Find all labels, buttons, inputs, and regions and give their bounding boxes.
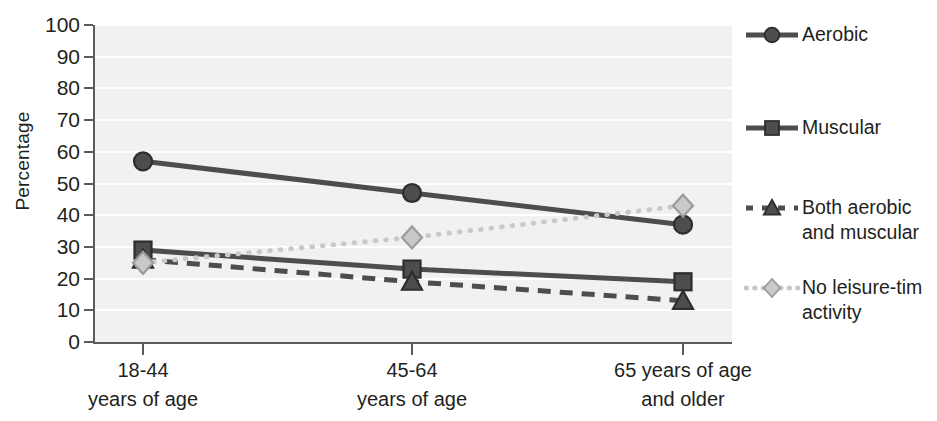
- x-label-line-1: 65 years of age: [614, 359, 752, 381]
- circle-legend-glyph: [744, 22, 800, 48]
- x-axis-tick-label: 18-44years of age: [28, 356, 258, 414]
- legend-item-1[interactable]: Aerobic: [744, 22, 937, 48]
- y-axis-tick-mark: [84, 309, 93, 311]
- y-axis-tick-mark: [84, 87, 93, 89]
- series-circle: [134, 152, 692, 233]
- legend-label: Both aerobic and muscular: [800, 195, 919, 245]
- chart-figure: Percentage 0102030405060708090100 18-44y…: [0, 0, 937, 421]
- legend-label: Muscular: [800, 115, 881, 140]
- legend-label: Aerobic: [800, 22, 868, 47]
- diamond-marker: [764, 279, 780, 297]
- y-axis-tick-mark: [84, 214, 93, 216]
- diamond-marker: [673, 195, 693, 217]
- circle-marker: [674, 216, 692, 234]
- y-axis-tick-mark: [84, 183, 93, 185]
- y-axis-tick-mark: [84, 341, 93, 343]
- square-marker: [675, 273, 692, 290]
- circle-marker: [765, 28, 780, 43]
- legend-item-4[interactable]: No leisure-tim activity: [744, 275, 937, 325]
- x-axis-tick-mark: [682, 344, 684, 355]
- square-marker: [765, 121, 779, 135]
- y-axis-tick-mark: [84, 278, 93, 280]
- legend-label: No leisure-tim activity: [800, 275, 922, 325]
- x-axis-tick-label: 45-64years of age: [297, 356, 527, 414]
- x-label-line-2: years of age: [28, 385, 258, 414]
- circle-marker: [134, 152, 152, 170]
- circle-marker: [403, 184, 421, 202]
- legend-key: [744, 22, 800, 48]
- chart-legend: AerobicMuscularBoth aerobic and muscular…: [744, 0, 937, 421]
- y-axis-tick-mark: [84, 246, 93, 248]
- y-axis-tick-mark: [84, 119, 93, 121]
- x-axis-tick-mark: [411, 344, 413, 355]
- legend-key: [744, 195, 800, 221]
- legend-item-3[interactable]: Both aerobic and muscular: [744, 195, 937, 245]
- y-axis-tick-mark: [84, 151, 93, 153]
- x-label-line-1: 18-44: [117, 359, 168, 381]
- x-label-line-2: years of age: [297, 385, 527, 414]
- square-legend-glyph: [744, 115, 800, 141]
- legend-key: [744, 115, 800, 141]
- x-axis-tick-mark: [142, 344, 144, 355]
- diamond-legend-glyph: [744, 275, 800, 301]
- x-label-line-1: 45-64: [386, 359, 437, 381]
- legend-item-2[interactable]: Muscular: [744, 115, 937, 141]
- diamond-marker: [402, 226, 422, 248]
- y-axis-tick-mark: [84, 24, 93, 26]
- y-axis-tick-mark: [84, 56, 93, 58]
- triangle-legend-glyph: [744, 195, 800, 221]
- legend-key: [744, 275, 800, 301]
